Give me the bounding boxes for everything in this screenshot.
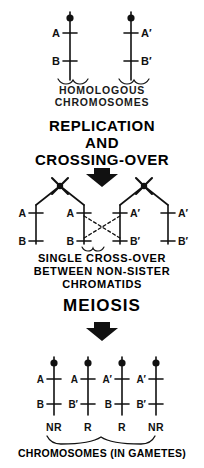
label-chromatid-3-B-prime: B′ xyxy=(130,235,141,247)
label-chromatid-1-A: A xyxy=(18,207,26,219)
centromere-dot xyxy=(141,183,147,189)
brace-gametes xyxy=(47,436,155,444)
label-gamete-2-lower: B′ xyxy=(68,399,78,410)
label-locus-A-prime: A′ xyxy=(141,27,152,39)
arrow-replication xyxy=(86,168,118,187)
label-gamete-3-upper: A′ xyxy=(102,374,112,385)
arrow-meiosis xyxy=(86,322,118,341)
single-crossover-caption: SINGLE CROSS-OVER BETWEEN NON-SISTER CHR… xyxy=(0,252,204,292)
label-chromatid-4-A-prime: A′ xyxy=(178,207,189,219)
label-gamete-1-upper: A xyxy=(37,374,44,385)
centromere-dot xyxy=(84,359,91,366)
label-gamete-1-lower: B xyxy=(37,399,44,410)
label-chromatid-2-B: B xyxy=(66,235,74,247)
centromere-dot xyxy=(127,14,134,21)
centromere-dot xyxy=(57,183,63,189)
gamete-2-type-label: R xyxy=(84,421,92,433)
gamete-3-type-label: R xyxy=(118,421,126,433)
label-chromatid-4-B-prime: B′ xyxy=(178,235,189,247)
label-chromatid-2-A: A xyxy=(66,207,74,219)
homologous-chromosomes-caption: HOMOLOGOUS CHROMOSOMES xyxy=(0,84,204,109)
top-panel-chromosomes xyxy=(58,12,149,84)
centromere-dot xyxy=(66,14,73,21)
meiosis-step-title: MEIOSIS xyxy=(0,296,204,316)
label-gamete-2-upper: A xyxy=(71,374,78,385)
centromere-dot xyxy=(50,359,57,366)
label-gamete-3-lower: B xyxy=(105,399,112,410)
centromere-dot xyxy=(118,359,125,366)
replication-step-title: REPLICATION AND CROSSING-OVER xyxy=(0,118,204,168)
gamete-1-type-label: NR xyxy=(46,421,62,433)
label-locus-B-prime: B′ xyxy=(141,55,152,67)
label-gamete-4-lower: B′ xyxy=(136,399,146,410)
diagram-canvas: A B A′ B′ A B A B A′ B′ A′ B′ A B A xyxy=(0,0,204,468)
brace-crossover xyxy=(82,247,104,251)
label-locus-A: A xyxy=(52,27,60,39)
label-chromatid-3-A-prime: A′ xyxy=(130,207,141,219)
chromosomes-in-gametes-caption: CHROMOSOMES (IN GAMETES) xyxy=(0,447,204,459)
middle-panel-chromatids xyxy=(29,178,175,251)
gamete-4-type-label: NR xyxy=(148,421,164,433)
label-gamete-4-upper: A′ xyxy=(136,374,146,385)
centromere-dot xyxy=(152,359,159,366)
label-locus-B: B xyxy=(52,55,60,67)
label-chromatid-1-B: B xyxy=(18,235,26,247)
crossing-over-figure: A B A′ B′ A B A B A′ B′ A′ B′ A B A xyxy=(0,0,204,468)
